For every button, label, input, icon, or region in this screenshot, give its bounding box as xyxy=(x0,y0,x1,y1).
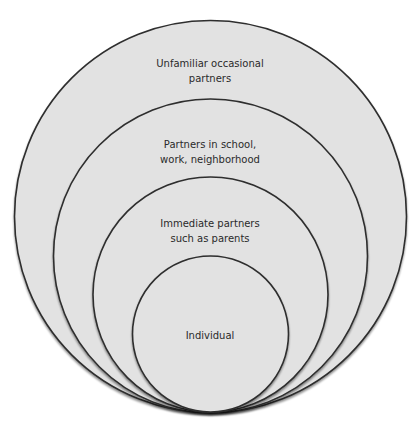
label-individual: Individual xyxy=(110,328,310,343)
label-school-work-neighborhood: Partners in school, work, neighborhood xyxy=(110,137,310,167)
label-unfamiliar-occasional-partners: Unfamiliar occasional partners xyxy=(110,56,310,86)
label-immediate-partners: Immediate partners such as parents xyxy=(110,216,310,246)
